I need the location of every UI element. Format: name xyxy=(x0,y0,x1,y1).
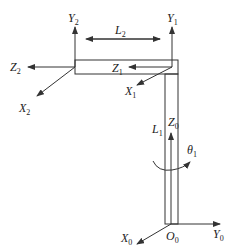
x2-axis-arrow xyxy=(37,67,75,96)
label-z0: Z0 xyxy=(168,116,179,131)
label-l1: L1 xyxy=(152,123,163,138)
label-l2: L2 xyxy=(115,24,126,39)
label-o0: O0 xyxy=(166,230,179,245)
label-y1: Y1 xyxy=(167,12,178,27)
label-z1: Z1 xyxy=(112,62,123,77)
label-x2: X2 xyxy=(19,102,30,117)
label-theta1: θ1 xyxy=(187,144,197,159)
diagram-canvas: Y2 L2 Y1 Z2 Z1 X1 X2 Z0 L1 θ1 O0 Y0 X0 xyxy=(0,0,232,247)
label-x0: X0 xyxy=(121,232,132,247)
x1-axis-arrow xyxy=(137,67,172,85)
label-y0: Y0 xyxy=(213,228,224,243)
label-z2: Z2 xyxy=(10,61,21,76)
label-x1: X1 xyxy=(125,85,136,100)
label-y2: Y2 xyxy=(68,12,79,27)
